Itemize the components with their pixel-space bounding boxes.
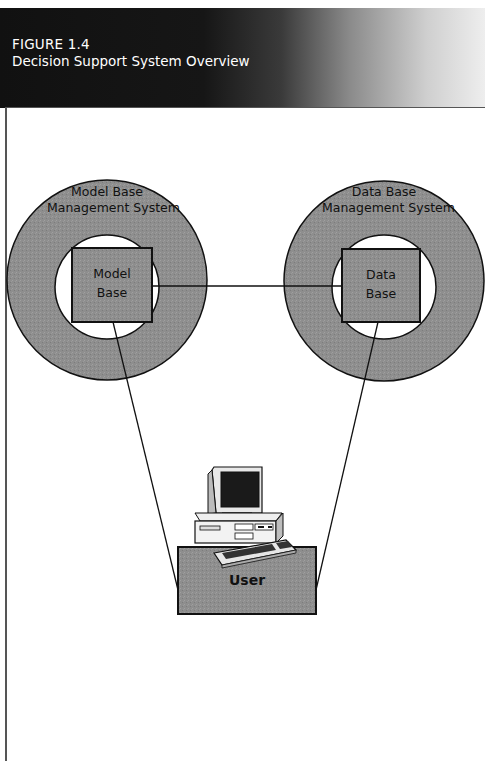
data-ring-label: Data Base Management System (322, 184, 446, 216)
data-ring-label-line1: Data Base (322, 184, 446, 200)
model-box-label: Model Base (72, 264, 152, 302)
user-label: User (178, 572, 316, 588)
data-box-label-line1: Data (342, 265, 420, 284)
model-ring-label: Model Base Management System (47, 184, 167, 216)
data-box-label-line2: Base (342, 284, 420, 303)
model-ring-label-line1: Model Base (47, 184, 167, 200)
model-ring-label-line2: Management System (47, 200, 167, 216)
data-box-label: Data Base (342, 265, 420, 303)
model-box-label-line1: Model (72, 264, 152, 283)
model-box-label-line2: Base (72, 283, 152, 302)
dss-diagram (0, 0, 485, 761)
data-ring-label-line2: Management System (322, 200, 446, 216)
